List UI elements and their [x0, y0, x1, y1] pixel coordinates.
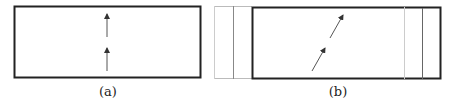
diagram-canvas	[0, 0, 455, 108]
arrow-icon	[312, 48, 325, 71]
arrow-icon	[330, 15, 343, 38]
caption-b: (b)	[318, 84, 358, 99]
panel-b	[214, 6, 441, 79]
panel-a	[15, 7, 201, 78]
caption-a: (a)	[88, 84, 128, 99]
